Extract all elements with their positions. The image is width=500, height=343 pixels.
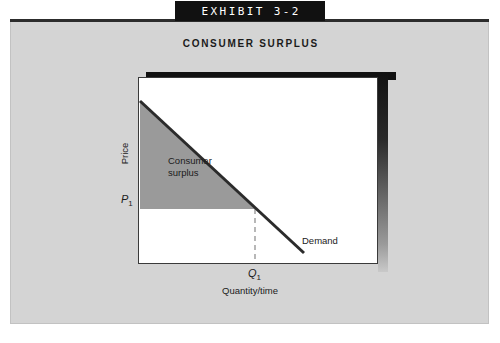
quantity-axis-label: Quantity/time (222, 285, 278, 296)
consumer-surplus-chart: Price P1 Q1 Quantity/time Consumer surpl… (130, 70, 392, 300)
exhibit-banner: EXHIBIT 3-2 (175, 1, 325, 21)
exhibit-page: EXHIBIT 3-2 CONSUMER SURPLUS Price P1 Q1… (0, 0, 500, 343)
price-point-label: P1 (121, 194, 133, 209)
consumer-surplus-label: Consumer surplus (168, 155, 230, 178)
quantity-point-label: Q1 (248, 268, 261, 283)
exhibit-title: CONSUMER SURPLUS (0, 38, 500, 49)
price-point-subscript: 1 (128, 199, 132, 208)
chart-shadow-right (378, 72, 388, 272)
demand-curve-label: Demand (302, 235, 338, 246)
price-axis-label: Price (119, 143, 130, 165)
quantity-point-symbol: Q (248, 267, 257, 279)
quantity-point-subscript: 1 (257, 273, 261, 282)
exhibit-banner-label: EXHIBIT 3-2 (199, 6, 301, 17)
